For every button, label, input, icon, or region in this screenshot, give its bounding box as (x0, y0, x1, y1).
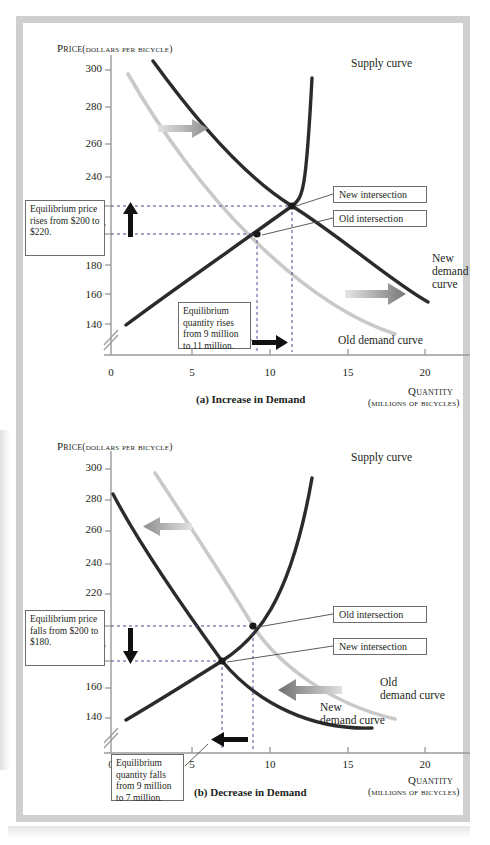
panel-increase-in-demand: Price(dollars per bicycle) 300 280 260 2… (0, 0, 490, 420)
old-intersection-callout-b: Old intersection (333, 606, 427, 623)
price-fall-arrow-b (123, 628, 138, 664)
price-change-callout-a: Equilibrium price rises from $200 to $22… (25, 200, 105, 256)
quantity-fall-arrow-b (211, 732, 248, 747)
price-rise-arrow-a (123, 202, 138, 237)
new-intersection-callout-a: New intersection (333, 186, 427, 203)
supply-curve-label-a: Supply curve (351, 57, 412, 70)
supply-curve-label-b: Supply curve (351, 451, 412, 464)
old-demand-curve-label-b: Old demand curve (380, 676, 445, 702)
leader-old-intersection-b (258, 614, 333, 627)
quantity-change-callout-b: Equilibrium quantity falls from 9 millio… (111, 754, 184, 801)
old-demand-curve-label-a: Old demand curve (338, 334, 423, 347)
new-intersection-dot-b (218, 657, 225, 664)
x-axis-title-a: Quantity (408, 385, 453, 397)
panel-caption-b: (b) Decrease in Demand (194, 786, 307, 798)
supply-curve-b (126, 478, 312, 720)
new-demand-line2-a: demand (432, 265, 468, 278)
old-demand-line1-b: Old (380, 676, 445, 689)
old-intersection-dot-a (253, 230, 260, 237)
new-demand-line3-a: curve (432, 278, 468, 291)
x-axis-subtitle-a: (millions of bicycles) (368, 398, 460, 408)
new-demand-curve-a (153, 61, 428, 302)
demand-shift-arrow-a-2 (345, 283, 406, 305)
new-demand-curve-label-a: New demand curve (432, 252, 468, 291)
panel-caption-a: (a) Increase in Demand (196, 393, 305, 405)
leader-qty-callout-b (185, 744, 208, 766)
new-demand-line1-a: New (432, 252, 468, 265)
new-demand-line2-b: demand curve (320, 714, 385, 727)
old-intersection-callout-a: Old intersection (333, 210, 427, 227)
x-axis-title-b: Quantity (408, 774, 453, 786)
panel-decrease-in-demand: Price(dollars per bicycle) 300 280 260 2… (0, 418, 490, 845)
new-intersection-dot-a (288, 202, 295, 209)
new-intersection-callout-b: New intersection (333, 638, 427, 655)
old-demand-line2-b: demand curve (380, 689, 445, 702)
quantity-change-callout-a: Equilibrium quantity rises from 9 millio… (178, 302, 251, 349)
old-intersection-dot-b (249, 622, 256, 629)
new-demand-line1-b: New (320, 701, 385, 714)
new-demand-curve-label-b: New demand curve (320, 701, 385, 727)
price-change-callout-b: Equilibrium price falls from $200 to $18… (25, 610, 105, 666)
x-axis-subtitle-b: (millions of bicycles) (368, 787, 460, 797)
